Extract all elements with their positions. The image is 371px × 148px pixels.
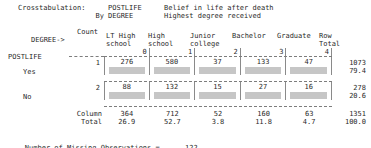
cell-count: 133	[241, 58, 286, 66]
redaction-bar	[199, 92, 236, 99]
cell-no-high-school: 132	[150, 82, 196, 100]
output-title-block: Crosstabulation: POSTLIFE Belief in life…	[18, 4, 358, 20]
cell-no-graduate: 16	[286, 82, 332, 100]
category-code-row: 0 1 2 3 4	[104, 48, 332, 56]
cell-yes-graduate: 47	[286, 57, 332, 75]
colhead-high-school-l2: school	[146, 40, 188, 48]
cell-yes-bachelor: 133	[241, 57, 287, 75]
redaction-bar	[290, 92, 327, 99]
column-total-count-high-school: 712	[150, 110, 196, 118]
cell-count: 132	[150, 83, 195, 91]
cell-no-lt-high-school: 88	[104, 82, 150, 100]
column-total-percent-lt-high-school: 26.9	[104, 118, 150, 126]
missing-observations-label: Number of Missing Observations =	[25, 144, 160, 148]
row-code-yes: 1	[80, 59, 100, 67]
grand-total-count: 1351	[336, 110, 366, 118]
count-caption: Count	[77, 28, 98, 36]
cell-count: 27	[241, 83, 286, 91]
column-total-percent-bachelor: 11.8	[241, 118, 287, 126]
table-row-yes: 276 580 37 133 47	[104, 57, 332, 75]
cell-count: 47	[286, 58, 331, 66]
cell-count: 16	[286, 83, 331, 91]
redaction-bar	[154, 67, 191, 74]
colhead-graduate-l2	[275, 40, 317, 48]
category-code-0: 0	[104, 48, 150, 56]
column-total-label-line2: Total	[50, 118, 102, 126]
colhead-bachelor-l2	[230, 40, 275, 48]
category-code-3: 3	[241, 48, 287, 56]
column-total-percent-row: 26.9 52.7 3.8 11.8 4.7	[104, 118, 332, 126]
row-label-yes: Yes	[23, 68, 36, 76]
missing-observations-value: 122	[185, 144, 198, 148]
title-row-row-variable: Crosstabulation: POSTLIFE Belief in life…	[18, 4, 358, 12]
row-total-yes-percent: 79.4	[336, 67, 366, 75]
cell-yes-high-school: 580	[150, 57, 196, 75]
row-variable-stub-label: POSTLIFE	[8, 53, 42, 61]
row-total-yes-count: 1073	[336, 59, 366, 67]
column-total-count-bachelor: 160	[241, 110, 287, 118]
colhead-high-school-l1: High	[146, 32, 188, 40]
crosstabulation-label: Crosstabulation:	[18, 4, 108, 12]
column-variable-description: Highest degree received	[164, 12, 358, 20]
cell-count: 15	[195, 83, 240, 91]
row-label-no: No	[23, 93, 31, 101]
stub-rule	[69, 56, 104, 57]
redaction-bar	[245, 92, 282, 99]
category-code-4: 4	[286, 48, 332, 56]
grand-total-percent: 100.0	[336, 118, 366, 126]
row-variable-name: POSTLIFE	[108, 4, 164, 12]
colhead-row-total-l2: Total	[317, 40, 357, 48]
redaction-bar	[154, 92, 191, 99]
colhead-junior-college-l1: Junior	[188, 32, 230, 40]
row-variable-description: Belief in life after death	[164, 4, 358, 12]
missing-observations-line: Number of Missing Observations = 122	[8, 136, 198, 148]
table-row-no: 88 132 15 27 16	[104, 82, 332, 100]
row-code-no: 2	[80, 84, 100, 92]
cell-count: 37	[195, 58, 240, 66]
column-total-label-line1: Column	[50, 110, 102, 118]
spss-crosstab-output: Crosstabulation: POSTLIFE Belief in life…	[0, 0, 371, 148]
colhead-junior-college-l2: college	[188, 40, 230, 48]
column-header-block: LT High High Junior Bachelor Graduate Ro…	[104, 32, 371, 48]
cell-yes-lt-high-school: 276	[104, 57, 150, 75]
cell-no-bachelor: 27	[241, 82, 287, 100]
column-total-percent-high-school: 52.7	[150, 118, 196, 126]
column-total-percent-junior-college: 3.8	[195, 118, 241, 126]
column-total-counts-row: 364 712 52 160 63	[104, 110, 332, 118]
redaction-bar	[245, 67, 282, 74]
title-row-column-variable: By DEGREE Highest degree received	[18, 12, 358, 20]
by-label: By	[18, 12, 108, 20]
column-total-count-lt-high-school: 364	[104, 110, 150, 118]
cell-count: 276	[105, 58, 149, 66]
colhead-bachelor-l1: Bachelor	[230, 32, 275, 40]
column-header-line1: LT High High Junior Bachelor Graduate Ro…	[104, 32, 371, 40]
row-total-no-percent: 20.6	[336, 92, 366, 100]
cell-no-junior-college: 15	[195, 82, 241, 100]
column-total-count-graduate: 63	[286, 110, 332, 118]
colhead-lt-high-school-l2: school	[104, 40, 146, 48]
colhead-row-total-l1: Row	[317, 32, 357, 40]
grid-bottom-rule	[104, 106, 332, 107]
cell-yes-junior-college: 37	[195, 57, 241, 75]
column-variable-name: DEGREE	[108, 12, 164, 20]
column-header-line2: school school college Total	[104, 40, 371, 48]
cell-count: 580	[150, 58, 195, 66]
colhead-graduate-l1: Graduate	[275, 32, 317, 40]
redaction-bar	[109, 67, 145, 74]
row-total-no-count: 278	[336, 84, 366, 92]
category-code-2: 2	[195, 48, 241, 56]
column-variable-arrow-label: DEGREE->	[31, 36, 65, 44]
cell-count: 88	[105, 83, 149, 91]
redaction-bar	[290, 67, 327, 74]
redaction-bar	[109, 92, 145, 99]
category-code-1: 1	[150, 48, 196, 56]
column-total-percent-graduate: 4.7	[286, 118, 332, 126]
redaction-bar	[199, 67, 236, 74]
column-total-count-junior-college: 52	[195, 110, 241, 118]
colhead-lt-high-school-l1: LT High	[104, 32, 146, 40]
